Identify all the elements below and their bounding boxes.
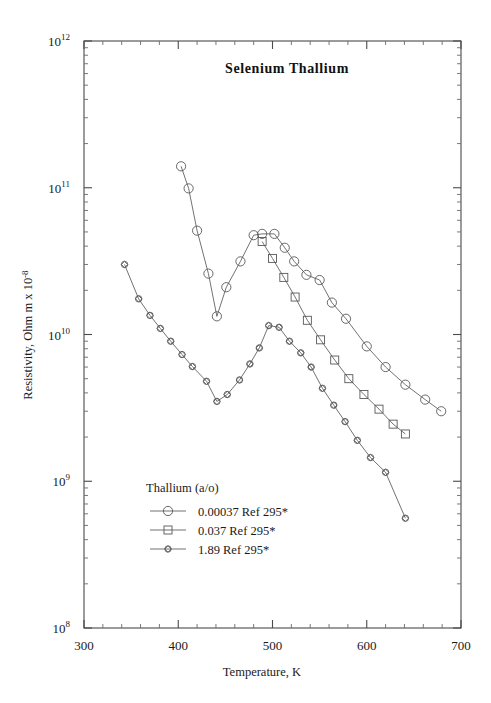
y-axis-ticks: [84, 41, 461, 628]
plot-frame-rect: [84, 41, 461, 628]
y-axis-tick-labels: 108109101010111012: [48, 32, 71, 636]
chart-title: Selenium Thallium: [225, 61, 349, 76]
y-tick-label: 108: [53, 619, 71, 636]
marker-diamond: [402, 515, 408, 521]
legend-title: Thallium (a/o): [146, 481, 219, 495]
y-tick-label: 1012: [48, 32, 70, 49]
legend-item-1[interactable]: 0.037 Ref 295*: [150, 524, 275, 538]
resistivity-vs-temperature-chart: 300400500600700 108109101010111012 Selen…: [0, 0, 491, 703]
x-axis-title: Temperature, K: [223, 665, 301, 679]
y-axis-title-text: Resistivity, Ohm m x 10-8: [20, 270, 35, 400]
marker-square: [401, 430, 409, 438]
y-tick-label: 1011: [48, 179, 70, 196]
legend-item-0[interactable]: 0.00037 Ref 295*: [150, 505, 288, 519]
x-tick-label: 600: [357, 638, 377, 653]
x-tick-label: 500: [263, 638, 283, 653]
x-axis-tick-labels: 300400500600700: [74, 638, 471, 653]
legend-item-2[interactable]: 1.89 Ref 295*: [150, 543, 269, 557]
y-tick-label: 109: [53, 472, 71, 489]
series-line: [181, 166, 441, 411]
chart-legend: Thallium (a/o) 0.00037 Ref 295*0.037 Ref…: [146, 481, 288, 557]
legend-entries: 0.00037 Ref 295*0.037 Ref 295*1.89 Ref 2…: [150, 505, 288, 557]
legend-item-label: 0.037 Ref 295*: [198, 524, 275, 538]
y-axis-title: Resistivity, Ohm m x 10-8: [20, 270, 35, 400]
marker-diamond-ring: [402, 515, 408, 521]
x-axis-ticks: [84, 41, 461, 628]
series-0: [176, 162, 445, 416]
x-tick-label: 700: [451, 638, 471, 653]
legend-item-label: 0.00037 Ref 295*: [198, 505, 288, 519]
x-tick-label: 300: [74, 638, 94, 653]
x-tick-label: 400: [169, 638, 189, 653]
legend-item-label: 1.89 Ref 295*: [198, 543, 269, 557]
y-tick-label: 1010: [48, 326, 71, 343]
figure-container: 300400500600700 108109101010111012 Selen…: [0, 0, 491, 703]
marker-circle: [176, 162, 185, 171]
x-axis-title-text: Temperature, K: [223, 665, 301, 679]
plot-frame: [84, 41, 461, 628]
data-series-group: [121, 162, 445, 522]
